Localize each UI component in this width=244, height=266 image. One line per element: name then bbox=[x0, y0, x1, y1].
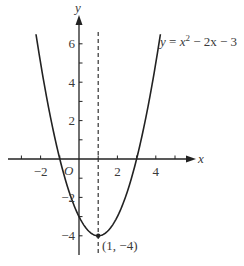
x-tick-label: 4 bbox=[153, 164, 160, 179]
vertex-point bbox=[96, 234, 100, 238]
y-tick-label: −4 bbox=[61, 228, 75, 243]
y-tick-label: 4 bbox=[69, 75, 76, 90]
x-tick-labels: −224 bbox=[34, 164, 160, 179]
vertex-label: (1, −4) bbox=[102, 238, 138, 253]
origin-label: O bbox=[64, 163, 74, 178]
y-tick-label: 6 bbox=[69, 36, 76, 51]
y-tick-label: −2 bbox=[61, 190, 75, 205]
y-tick-labels: 642−2−4 bbox=[61, 36, 75, 243]
x-axis-label: x bbox=[197, 151, 204, 166]
parabola-curve bbox=[36, 34, 160, 236]
x-tick-label: 2 bbox=[114, 164, 121, 179]
y-axis-arrow-icon bbox=[76, 15, 83, 25]
equation-label: y = x2 − 2x − 3 bbox=[158, 33, 237, 49]
parabola-chart: y x O y = x2 − 2x − 3 (1, −4) −224 642−2… bbox=[0, 0, 244, 266]
x-axis-arrow-icon bbox=[186, 156, 196, 163]
y-tick-label: 2 bbox=[69, 113, 76, 128]
y-axis-label: y bbox=[73, 0, 81, 15]
x-tick-label: −2 bbox=[34, 164, 48, 179]
